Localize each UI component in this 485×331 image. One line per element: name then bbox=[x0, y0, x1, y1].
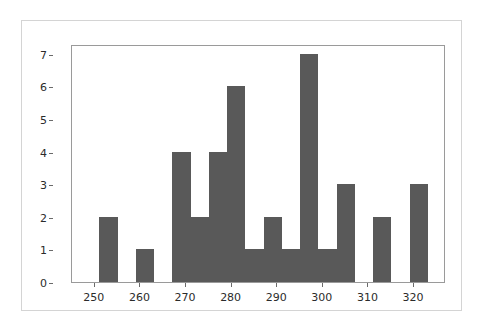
bar bbox=[337, 184, 355, 282]
y-tick-mark bbox=[49, 283, 53, 284]
bar bbox=[209, 152, 227, 282]
y-tick-label: 0 bbox=[7, 278, 47, 289]
bar bbox=[136, 249, 154, 282]
y-tick-label: 3 bbox=[7, 180, 47, 191]
figure-root: 01234567 250260270280290300310320 bbox=[0, 0, 485, 331]
x-tick-mark bbox=[139, 283, 140, 287]
bar bbox=[172, 152, 190, 282]
x-tick-label: 310 bbox=[357, 292, 378, 303]
bar bbox=[264, 217, 282, 282]
y-tick-label: 6 bbox=[7, 82, 47, 93]
y-tick-mark bbox=[49, 250, 53, 251]
x-tick-mark bbox=[94, 283, 95, 287]
x-tick-label: 280 bbox=[220, 292, 241, 303]
bar bbox=[191, 217, 209, 282]
y-tick-mark bbox=[49, 87, 53, 88]
x-tick-label: 290 bbox=[266, 292, 287, 303]
y-tick-label: 2 bbox=[7, 212, 47, 223]
bar bbox=[99, 217, 117, 282]
x-tick-mark bbox=[413, 283, 414, 287]
x-tick-mark bbox=[367, 283, 368, 287]
bar bbox=[410, 184, 428, 282]
x-tick-mark bbox=[276, 283, 277, 287]
x-axis: 250260270280290300310320 bbox=[71, 283, 446, 323]
bar bbox=[373, 217, 391, 282]
x-tick-mark bbox=[322, 283, 323, 287]
x-tick-label: 300 bbox=[311, 292, 332, 303]
y-tick-mark bbox=[49, 55, 53, 56]
bar bbox=[318, 249, 336, 282]
x-tick-mark bbox=[231, 283, 232, 287]
y-tick-label: 7 bbox=[7, 49, 47, 60]
y-tick-mark bbox=[49, 218, 53, 219]
y-tick-mark bbox=[49, 185, 53, 186]
bar bbox=[300, 54, 318, 282]
plot-area bbox=[71, 45, 445, 283]
x-tick-label: 270 bbox=[175, 292, 196, 303]
bar bbox=[227, 86, 245, 282]
x-tick-label: 320 bbox=[403, 292, 424, 303]
x-tick-mark bbox=[185, 283, 186, 287]
y-axis: 01234567 bbox=[0, 45, 71, 284]
x-tick-label: 250 bbox=[83, 292, 104, 303]
y-tick-mark bbox=[49, 153, 53, 154]
bar bbox=[245, 249, 263, 282]
y-tick-label: 5 bbox=[7, 114, 47, 125]
bar bbox=[282, 249, 300, 282]
y-tick-label: 1 bbox=[7, 245, 47, 256]
y-tick-label: 4 bbox=[7, 147, 47, 158]
y-tick-mark bbox=[49, 120, 53, 121]
x-tick-label: 260 bbox=[129, 292, 150, 303]
bars-container bbox=[72, 46, 444, 282]
